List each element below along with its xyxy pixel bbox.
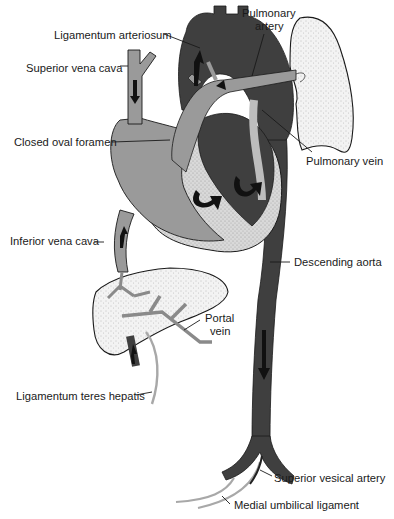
svg-text:Superior vena cava: Superior vena cava	[26, 62, 123, 74]
svg-text:Ligamentum arteriosum: Ligamentum arteriosum	[54, 29, 172, 41]
svg-text:vein: vein	[210, 325, 231, 337]
svg-text:Medial umbilical ligament: Medial umbilical ligament	[234, 499, 360, 511]
label-descending-aorta: Descending aorta	[270, 256, 382, 268]
label-inferior-vena-cava: Inferior vena cava	[10, 235, 104, 247]
svg-text:Closed oval foramen: Closed oval foramen	[14, 136, 117, 148]
label-medial-umbilical-ligament: Medial umbilical ligament	[222, 496, 360, 511]
svg-text:Superior vesical artery: Superior vesical artery	[274, 472, 386, 484]
label-ligamentum-arteriosum: Ligamentum arteriosum	[54, 29, 200, 48]
label-superior-vesical-artery: Superior vesical artery	[260, 470, 386, 484]
fetal-circulation-diagram: Ligamentum arteriosum Pulmonary artery S…	[0, 0, 394, 519]
svg-text:Pulmonary: Pulmonary	[242, 7, 296, 19]
svg-text:Pulmonary vein: Pulmonary vein	[306, 155, 383, 167]
label-ligamentum-teres-hepatis: Ligamentum teres hepatis	[16, 390, 152, 402]
svg-text:Ligamentum teres hepatis: Ligamentum teres hepatis	[16, 390, 145, 402]
svg-text:Inferior vena cava: Inferior vena cava	[10, 235, 100, 247]
inferior-vena-cava	[114, 210, 134, 272]
lung	[290, 17, 353, 152]
superior-vena-cava	[128, 50, 156, 124]
label-superior-vena-cava: Superior vena cava	[26, 62, 128, 74]
svg-text:Portal: Portal	[205, 312, 234, 324]
svg-text:artery: artery	[255, 20, 284, 32]
svg-text:Descending aorta: Descending aorta	[294, 256, 382, 268]
